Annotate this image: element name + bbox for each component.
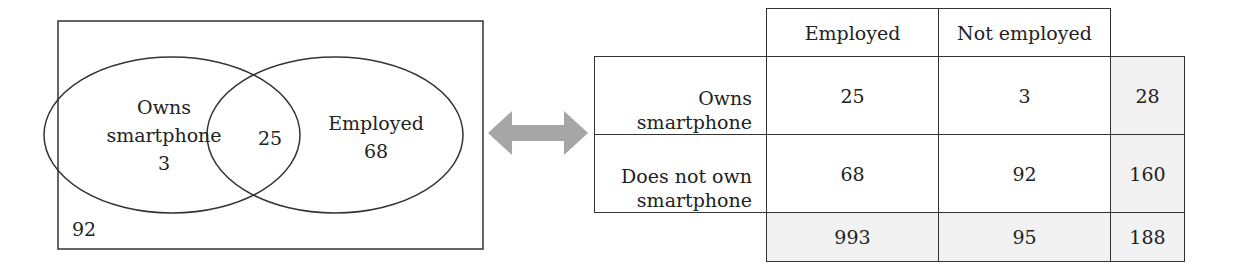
row-total-not-own: 160 <box>1110 134 1185 213</box>
row-total-owns: 28 <box>1110 56 1185 135</box>
employed-label: Employed <box>328 112 424 134</box>
cell-owns-employed: 25 <box>766 56 939 135</box>
cell-not-own-employed: 68 <box>766 134 939 213</box>
grand-total: 188 <box>1110 212 1185 262</box>
smartphone-only-value: 3 <box>158 152 170 174</box>
row-label-owns-smartphone: Owns smartphone <box>594 56 767 135</box>
cell-owns-not-employed: 3 <box>938 56 1111 135</box>
venn-diagram: Owns smartphone 3 25 Employed 68 92 <box>0 0 490 274</box>
intersection-value: 25 <box>258 127 282 149</box>
col-header-employed: Employed <box>766 8 939 57</box>
row-label-line2: smartphone <box>637 110 752 134</box>
double-arrow-icon <box>488 108 588 158</box>
row-label-line1: Owns <box>698 86 752 110</box>
col-total-employed: 993 <box>766 212 939 262</box>
row-label-does-not-own: Does not own smartphone <box>594 134 767 213</box>
col-header-not-employed: Not employed <box>938 8 1111 57</box>
smartphone-label-line2: smartphone <box>106 124 221 146</box>
outside-value: 92 <box>72 218 96 240</box>
employed-only-value: 68 <box>364 140 388 162</box>
row-label-line1: Does not own <box>621 164 752 188</box>
col-total-not-employed: 95 <box>938 212 1111 262</box>
cell-not-own-not-employed: 92 <box>938 134 1111 213</box>
row-label-line2: smartphone <box>637 188 752 212</box>
smartphone-label-line1: Owns <box>137 96 191 118</box>
